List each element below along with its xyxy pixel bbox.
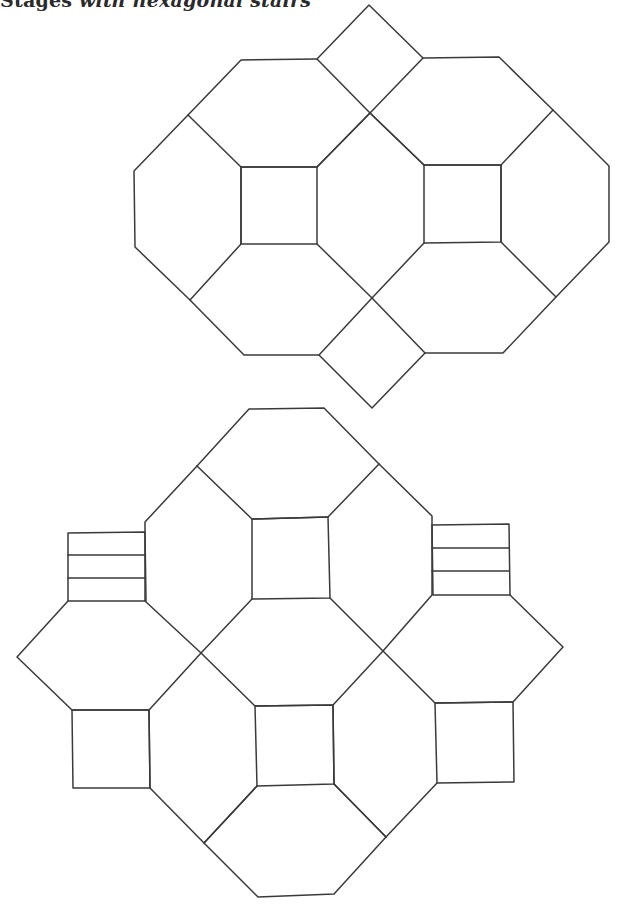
left-middle-hexagon [17,601,201,710]
right-stair-block [432,524,510,595]
top-layout [134,5,609,408]
left-stair-block [68,532,146,601]
lower-right-octagon [333,705,437,837]
upper-left-octagon [145,466,252,653]
top-right-octagon [501,110,609,297]
lower-left-square [72,710,150,788]
top-diamond [317,5,423,113]
lower-right-square [435,702,514,783]
top-left-upper-hexagon [188,59,370,167]
top-left-square [241,167,317,244]
top-left-lower-hexagon [190,298,372,355]
right-middle-hexagon [383,595,563,703]
top-left-octagon [134,115,241,300]
top-right-lower-hexagon [372,297,556,353]
top-center-edge [317,244,372,298]
bottom-hexagon-top [204,786,257,843]
lower-center-square [255,705,334,786]
bottom-hexagon [204,837,386,897]
lower-left-octagon [149,710,257,843]
bottom-top-hexagon [197,408,379,466]
top-right-square [424,165,501,243]
upper-right-octagon [330,464,432,651]
bottom-layout [17,408,563,897]
top-center-edge [317,113,370,167]
tiling-diagram [0,0,637,914]
center-middle-octagon [201,651,383,706]
top-center-edge [370,113,424,165]
bottom-top-hexagon-lower [197,464,379,519]
top-right-upper-hexagon [370,57,553,165]
upper-center-square [252,517,330,599]
top-center-edge [372,243,424,298]
bottom-hexagon-top [334,784,386,837]
bottom-diamond [319,353,425,408]
